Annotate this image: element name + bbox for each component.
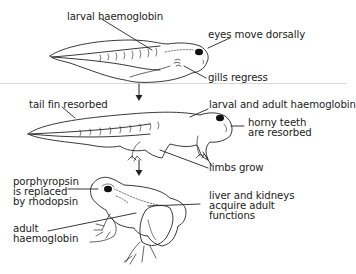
leader-larval-adult xyxy=(190,109,208,117)
label-tail-fin-resorbed: tail fin resorbed xyxy=(29,100,108,110)
label-larval-and-adult-haemoglobin: larval and adult haemoglobin xyxy=(209,100,356,110)
label-horny-teeth-line2: are resorbed xyxy=(248,128,312,138)
tadpole-eye-icon xyxy=(195,49,203,56)
leader-liver xyxy=(148,204,200,206)
froglet-illustration xyxy=(28,107,244,168)
label-adult-line2: haemoglobin xyxy=(13,234,78,244)
label-porphyropsin-line3: by rhodopsin xyxy=(13,197,78,207)
froglet-eye-icon xyxy=(216,115,224,121)
label-liver-line3: functions xyxy=(209,211,255,221)
frog-illustration xyxy=(48,177,200,264)
label-limbs-grow: limbs grow xyxy=(209,163,264,173)
label-gills-regress: gills regress xyxy=(208,73,268,83)
frog-eye-icon xyxy=(104,186,112,193)
label-eyes-move-dorsally: eyes move dorsally xyxy=(208,30,305,40)
arrow-down-icon xyxy=(136,160,143,176)
tadpole-illustration xyxy=(50,18,230,82)
leader-larval-haemoglobin xyxy=(100,18,152,50)
leader-adult-haemoglobin xyxy=(48,213,136,231)
arrow-down-icon xyxy=(136,84,143,101)
label-larval-haemoglobin: larval haemoglobin xyxy=(67,12,163,22)
